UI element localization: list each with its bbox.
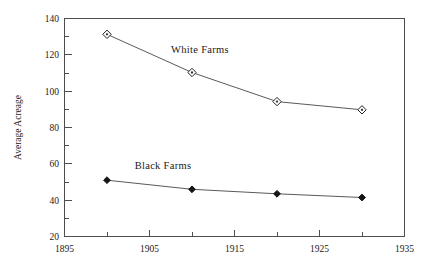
y-tick-label: 20	[50, 232, 60, 242]
data-point	[188, 68, 196, 76]
black-farms-line	[107, 180, 362, 197]
y-tick-label: 100	[45, 87, 60, 97]
data-point	[273, 97, 281, 105]
x-tick-label: 1895	[55, 244, 74, 254]
y-axis-title: Average Acreage	[13, 95, 23, 160]
y-tick-label: 40	[50, 196, 60, 206]
data-point	[359, 194, 366, 201]
data-point	[104, 177, 111, 184]
data-point	[189, 186, 196, 193]
y-tick-label: 60	[50, 159, 60, 169]
series-black-farms: Black Farms	[104, 160, 366, 201]
y-axis: 140 120 100 80 60 40 20 Average Acreage	[13, 14, 72, 242]
data-point	[358, 106, 366, 114]
x-tick-label: 1935	[395, 244, 414, 254]
y-tick-label: 80	[50, 123, 60, 133]
black-farms-label: Black Farms	[135, 160, 192, 171]
y-axis-major-ticks	[65, 19, 72, 237]
plot-frame	[65, 19, 405, 237]
data-point	[103, 30, 111, 38]
x-axis-major-ticks	[65, 230, 405, 237]
series-white-farms: White Farms	[103, 30, 366, 114]
white-farms-markers	[103, 30, 366, 114]
white-farms-line	[107, 34, 362, 110]
x-tick-label: 1915	[225, 244, 244, 254]
white-farms-label: White Farms	[171, 44, 229, 55]
line-chart: 140 120 100 80 60 40 20 Average Acreage	[0, 0, 433, 270]
x-tick-label: 1905	[140, 244, 159, 254]
x-tick-label: 1925	[310, 244, 329, 254]
y-tick-label: 120	[45, 50, 60, 60]
chart-container: 140 120 100 80 60 40 20 Average Acreage	[0, 0, 433, 270]
black-farms-markers	[104, 177, 366, 201]
x-axis: 1895 1905 1915 1925 1935	[55, 230, 414, 255]
y-tick-label: 140	[45, 14, 60, 24]
data-point	[274, 190, 281, 197]
